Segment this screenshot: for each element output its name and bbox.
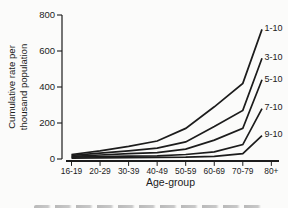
x-tick-label: 60-69 bbox=[204, 166, 226, 176]
x-tick-label: 80+ bbox=[264, 166, 278, 176]
x-tick-label: 30-39 bbox=[118, 166, 140, 176]
x-tick-label: 50-59 bbox=[175, 166, 197, 176]
x-tick-label: 20-29 bbox=[89, 166, 111, 176]
y-tick-label: 600 bbox=[39, 45, 55, 56]
figure-caption-cutoff: Fig. bbox=[0, 195, 288, 208]
series-label-1-10: 1-10 bbox=[265, 23, 283, 33]
y-tick-label: 200 bbox=[39, 117, 55, 128]
series-label-9-10: 9-10 bbox=[265, 129, 283, 139]
series-label-5-10: 5-10 bbox=[265, 74, 283, 84]
series-line-3-10 bbox=[72, 58, 263, 155]
figure-page: 0200400600800Cumulative rate perthousand… bbox=[0, 0, 288, 208]
caption-clipped-text: Fig. bbox=[8, 204, 264, 208]
y-tick-label: 0 bbox=[50, 153, 55, 164]
y-tick-label: 400 bbox=[39, 81, 55, 92]
x-tick-label: 16-19 bbox=[61, 166, 83, 176]
caption-text-smudge bbox=[34, 205, 264, 208]
cumulative-rate-line-chart: 0200400600800Cumulative rate perthousand… bbox=[0, 0, 288, 195]
x-tick-label: 40-49 bbox=[146, 166, 168, 176]
series-label-7-10: 7-10 bbox=[265, 102, 283, 112]
x-tick-label: 70-79 bbox=[232, 166, 254, 176]
y-tick-label: 800 bbox=[39, 9, 55, 20]
x-axis-title: Age-group bbox=[146, 176, 195, 188]
y-axis-title-line2: thousand population bbox=[18, 44, 29, 130]
series-label-3-10: 3-10 bbox=[265, 52, 283, 62]
series-line-1-10 bbox=[72, 29, 263, 154]
y-axis-title-line1: Cumulative rate per bbox=[6, 44, 17, 129]
